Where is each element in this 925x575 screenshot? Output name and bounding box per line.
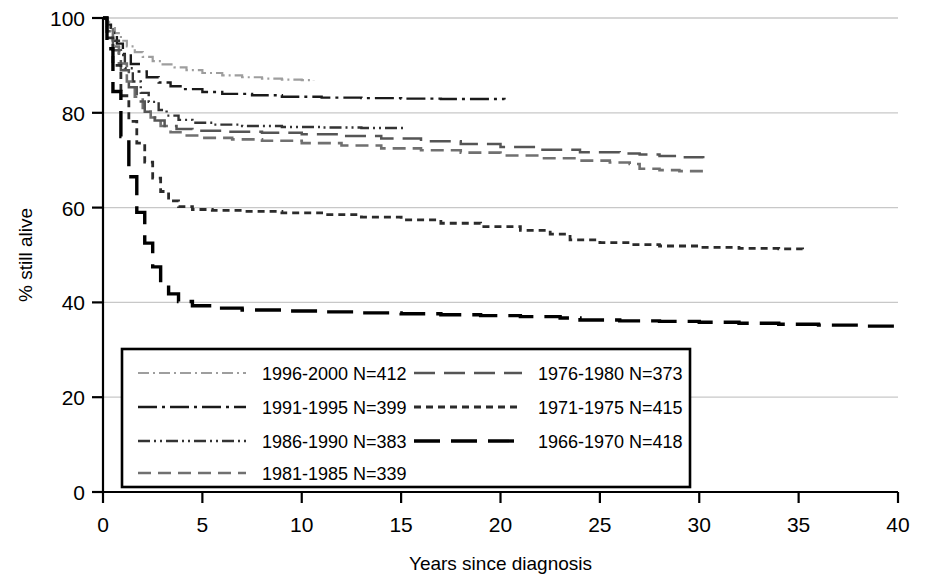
legend-label-1991-1995: 1991-1995 N=399 — [262, 398, 407, 418]
x-tick-label-25: 25 — [588, 513, 611, 536]
y-axis-title: % still alive — [15, 208, 36, 302]
y-tick-label-0: 0 — [73, 481, 85, 504]
x-tick-label-5: 5 — [197, 513, 209, 536]
legend-label-1981-1985: 1981-1985 N=339 — [262, 464, 407, 484]
y-tick-label-20: 20 — [62, 386, 85, 409]
y-tick-label-80: 80 — [62, 102, 85, 125]
series-line-1971-1975 — [103, 18, 803, 249]
series-line-1981-1985 — [103, 18, 703, 172]
legend-label-1971-1975: 1971-1975 N=415 — [538, 398, 683, 418]
series-line-1991-1995 — [103, 18, 504, 100]
series-line-1996-2000 — [103, 18, 314, 81]
x-tick-label-35: 35 — [787, 513, 810, 536]
legend-label-1976-1980: 1976-1980 N=373 — [538, 364, 683, 384]
series-line-1966-1970 — [103, 18, 898, 327]
x-tick-label-30: 30 — [688, 513, 711, 536]
legend-label-1996-2000: 1996-2000 N=412 — [262, 364, 407, 384]
x-tick-label-20: 20 — [489, 513, 512, 536]
y-tick-label-60: 60 — [62, 197, 85, 220]
legend: 1996-2000 N=4121991-1995 N=3991986-1990 … — [122, 349, 690, 487]
x-axis-title: Years since diagnosis — [409, 553, 592, 574]
y-tick-label-40: 40 — [62, 291, 85, 314]
y-tick-label-100: 100 — [50, 7, 85, 30]
survival-chart: 0204060801000510152025303540 Years since… — [0, 0, 925, 575]
x-tick-label-10: 10 — [290, 513, 313, 536]
chart-canvas: 0204060801000510152025303540 Years since… — [0, 0, 925, 575]
series-lines — [103, 18, 898, 327]
legend-label-1966-1970: 1966-1970 N=418 — [538, 432, 683, 452]
legend-label-1986-1990: 1986-1990 N=383 — [262, 432, 407, 452]
x-tick-label-40: 40 — [886, 513, 909, 536]
x-tick-label-15: 15 — [389, 513, 412, 536]
x-tick-label-0: 0 — [97, 513, 109, 536]
